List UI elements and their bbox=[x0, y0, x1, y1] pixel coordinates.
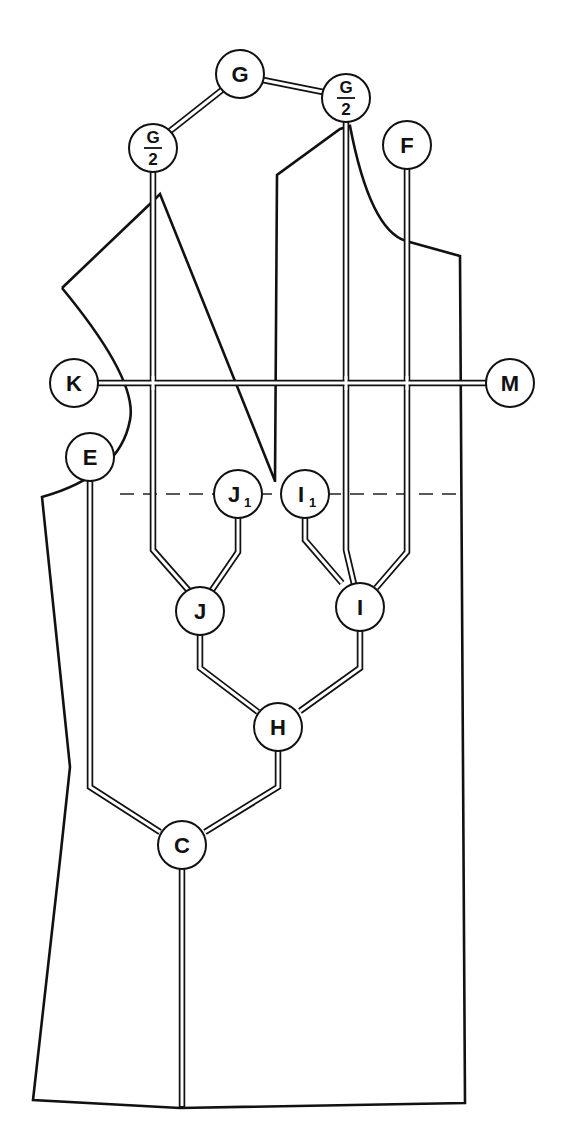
node-E: E bbox=[66, 433, 114, 481]
node-J: J bbox=[176, 587, 224, 635]
svg-text:F: F bbox=[400, 133, 413, 158]
svg-text:J: J bbox=[228, 482, 240, 507]
svg-text:H: H bbox=[270, 715, 286, 740]
node-K: K bbox=[50, 359, 98, 407]
svg-text:1: 1 bbox=[309, 495, 316, 510]
back-piece-outline bbox=[33, 126, 465, 1108]
svg-text:1: 1 bbox=[244, 495, 251, 510]
node-C: C bbox=[158, 821, 206, 869]
svg-text:G: G bbox=[146, 128, 159, 147]
node-G-half-left: G 2 bbox=[129, 124, 177, 172]
connector-rails bbox=[90, 80, 486, 1108]
svg-text:2: 2 bbox=[148, 150, 157, 169]
svg-text:K: K bbox=[66, 371, 82, 396]
node-F: F bbox=[383, 121, 431, 169]
pattern-diagram: G G 2 G 2 F K M E J 1 I 1 J bbox=[0, 0, 562, 1134]
node-I: I bbox=[336, 583, 384, 631]
svg-text:I: I bbox=[298, 482, 304, 507]
svg-text:E: E bbox=[83, 445, 98, 470]
node-G: G bbox=[216, 50, 264, 98]
node-H: H bbox=[254, 703, 302, 751]
svg-text:M: M bbox=[501, 371, 519, 396]
svg-text:J: J bbox=[194, 599, 206, 624]
svg-text:I: I bbox=[357, 595, 363, 620]
node-I1: I 1 bbox=[281, 470, 329, 518]
pattern-outline bbox=[33, 126, 465, 1108]
svg-text:2: 2 bbox=[341, 100, 350, 119]
node-J1: J 1 bbox=[214, 470, 262, 518]
svg-text:G: G bbox=[339, 78, 352, 97]
node-G-half-right: G 2 bbox=[322, 74, 370, 122]
svg-text:C: C bbox=[174, 833, 190, 858]
svg-text:G: G bbox=[231, 62, 248, 87]
node-M: M bbox=[486, 359, 534, 407]
